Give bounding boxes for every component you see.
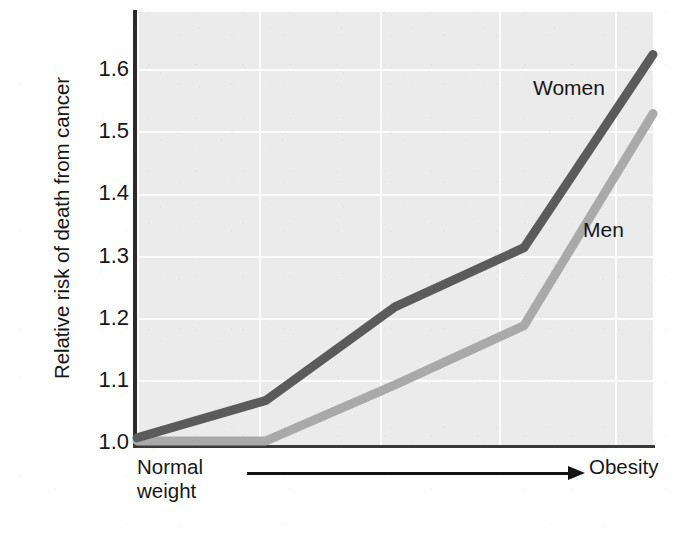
y-axis-tick-labels: 1.6 1.5 1.4 1.3 1.2 1.1 1.0	[63, 0, 129, 539]
gridline-h-1-4	[137, 194, 653, 196]
y-tick-label-1-2: 1.2	[67, 307, 129, 329]
gridline-h-1-5	[137, 131, 653, 133]
arrow-head	[568, 466, 585, 480]
gridline-h-1-6	[137, 69, 653, 71]
cancer-risk-line-chart: Relative risk of death from cancer 1.6 1…	[0, 0, 693, 539]
gridline-h-1-1	[137, 380, 653, 382]
x-axis-right-label: Obesity	[589, 455, 659, 479]
gridline-v-3	[499, 12, 501, 446]
gridline-v-1	[259, 12, 261, 446]
x-axis-left-label-line2: weight	[137, 479, 203, 503]
arrow-shaft	[247, 472, 571, 475]
y-tick-label-1-5: 1.5	[67, 120, 129, 142]
y-tick-label-1-6: 1.6	[67, 58, 129, 80]
gridline-v-0	[137, 12, 139, 446]
y-axis-line	[133, 10, 137, 448]
y-tick-label-1-4: 1.4	[67, 182, 129, 204]
x-axis-line	[133, 445, 655, 448]
x-axis-left-label-line1: Normal	[137, 455, 203, 478]
y-tick-label-1-0: 1.0	[67, 431, 129, 453]
y-tick-label-1-3: 1.3	[67, 245, 129, 267]
x-axis-arrow-icon	[247, 466, 585, 480]
gridline-v-2	[380, 12, 382, 446]
series-label-men: Men	[583, 218, 624, 242]
x-axis-left-label: Normal weight	[137, 455, 203, 503]
gridline-h-1-3	[137, 256, 653, 258]
y-tick-label-1-1: 1.1	[67, 369, 129, 391]
series-label-women: Women	[533, 76, 605, 100]
x-axis-annotation: Normal weight Obesity	[137, 455, 677, 525]
gridline-h-1-2	[137, 318, 653, 320]
